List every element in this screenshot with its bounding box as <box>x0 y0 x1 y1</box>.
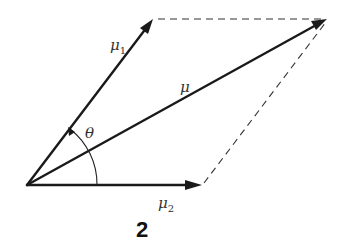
arrowhead-icon <box>185 180 202 190</box>
label-mu1: μ1 <box>110 36 126 56</box>
vector-mu1 <box>27 19 153 185</box>
arrowhead-icon <box>311 19 327 30</box>
vector-mu <box>27 19 327 185</box>
vector-addition-diagram: μ1 μ θ μ2 2 <box>0 0 343 245</box>
label-mu: μ <box>180 78 190 96</box>
label-theta: θ <box>85 124 94 142</box>
figure-number: 2 <box>136 217 148 242</box>
vector-mu2 <box>27 180 202 190</box>
label-mu2: μ2 <box>158 194 174 214</box>
dashed-right-side <box>204 22 326 183</box>
